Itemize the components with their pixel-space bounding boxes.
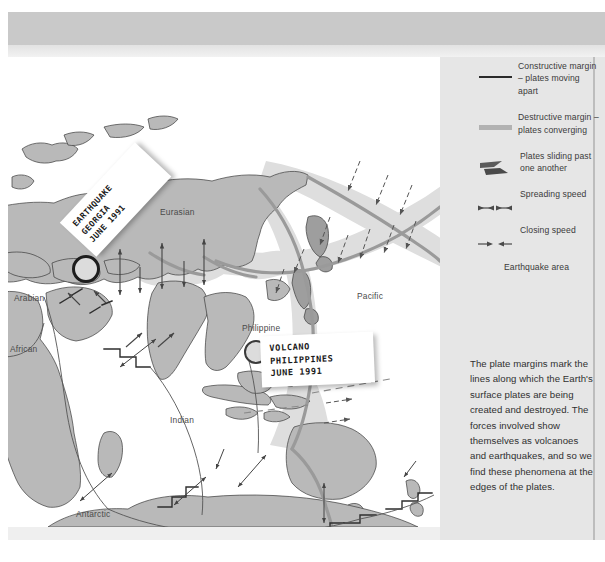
legend-label: Closing speed — [520, 225, 600, 236]
callout-volcano-philippines: VOLCANO PHILIPPINES JUNE 1991 — [260, 332, 375, 388]
plate-label-arabian: Arabian — [14, 293, 44, 303]
plate-label-indian: Indian — [170, 415, 194, 425]
legend-item-constructive-margin: Constructive margin – plates moving apar… — [478, 60, 600, 97]
map-legend: Constructive margin – plates moving apar… — [478, 60, 600, 297]
tectonic-plate-map: Eurasian Pacific Arabian African Indian … — [8, 57, 440, 527]
spreading-speed-arrows-icon — [478, 201, 514, 211]
legend-label: Earthquake area — [504, 261, 600, 273]
plate-label-antarctic: Antarctic — [76, 509, 110, 519]
legend-item-transform-margin: Plates sliding past one another — [478, 150, 600, 175]
plate-label-african: African — [10, 344, 37, 354]
header-band — [8, 12, 605, 45]
plate-label-eurasian: Eurasian — [160, 207, 195, 217]
plate-label-pacific: Pacific — [357, 291, 383, 301]
page-left-margin — [0, 0, 8, 562]
legend-label: Spreading speed — [520, 189, 600, 200]
header-band-fade — [8, 45, 605, 57]
closing-speed-arrows-icon — [478, 237, 514, 247]
legend-item-earthquake-area: Earthquake area — [478, 261, 600, 283]
destructive-margin-band-icon — [478, 123, 514, 133]
figure-page: Eurasian Pacific Arabian African Indian … — [0, 0, 605, 562]
legend-label: Destructive margin – plates converging — [518, 111, 600, 136]
legend-item-destructive-margin: Destructive margin – plates converging — [478, 111, 600, 136]
earthquake-marker-georgia — [72, 255, 100, 283]
plates-sliding-arrows-icon — [478, 162, 514, 172]
legend-label: Constructive margin – plates moving apar… — [518, 60, 600, 97]
legend-item-spreading-speed: Spreading speed — [478, 189, 600, 211]
figure-caption: The plate margins mark the lines along w… — [470, 356, 596, 495]
legend-item-closing-speed: Closing speed — [478, 225, 600, 247]
page-bottom-margin — [0, 540, 605, 562]
legend-label: Plates sliding past one another — [520, 150, 600, 175]
plate-label-philippine: Philippine — [242, 323, 280, 333]
constructive-margin-line-icon — [478, 72, 514, 82]
